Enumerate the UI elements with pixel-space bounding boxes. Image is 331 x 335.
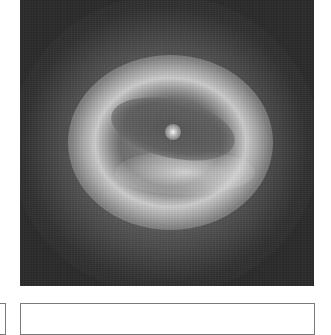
- image-grain: [20, 0, 314, 286]
- galaxy-image: [20, 0, 314, 286]
- left-panel-fragment: [0, 303, 6, 335]
- caption-panel: [20, 303, 315, 335]
